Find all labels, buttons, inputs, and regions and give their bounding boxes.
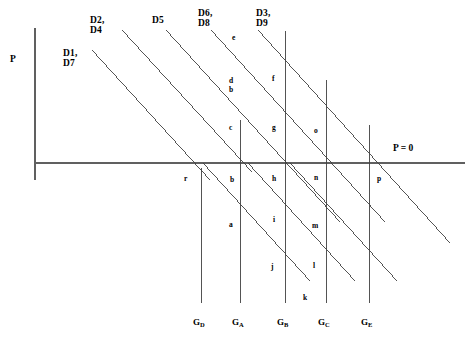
demand-curve-label-d1d7: D1, D7 (63, 48, 78, 69)
quantity-label-base: G (361, 317, 368, 327)
price-axis-label: P (10, 54, 16, 64)
curve-d3d9 (258, 30, 450, 243)
area-label-j: j (271, 263, 274, 271)
demand-curve-label-d5: D5 (152, 15, 164, 25)
area-label-r: r (184, 175, 187, 183)
quantity-label-d: GD (193, 318, 205, 328)
curve-lower-b (248, 163, 355, 281)
area-label-p: p (377, 175, 381, 183)
quantity-label-base: G (277, 317, 284, 327)
area-label-g: g (272, 124, 276, 132)
demand-curves-group (92, 30, 450, 281)
quantity-label-base: G (232, 317, 239, 327)
quantity-label-subscript: E (368, 321, 372, 328)
curve-d6d8 (211, 30, 385, 222)
axes-group (35, 28, 465, 180)
area-label-b: b (230, 176, 234, 184)
quantity-label-a: GA (232, 318, 244, 328)
area-label-e: e (232, 34, 235, 42)
area-label-n: n (314, 174, 318, 182)
area-label-c: c (229, 124, 232, 132)
quantity-label-c: GC (318, 318, 330, 328)
area-label-o: o (314, 127, 318, 135)
area-label-i: i (273, 216, 275, 224)
demand-curve-label-d3d9: D3, D9 (256, 8, 271, 29)
quantity-label-subscript: C (325, 321, 330, 328)
area-label-b: b (229, 86, 233, 94)
quantity-label-subscript: D (200, 321, 205, 328)
area-label-f: f (272, 75, 275, 83)
quantity-label-e: GE (361, 318, 372, 328)
area-label-l: l (313, 262, 315, 270)
diagram-canvas: PP = 0D1, D7D2, D4D5D6, D8D3, D9edbfcgor… (0, 0, 473, 340)
curve-d1d7 (92, 50, 210, 180)
area-label-h: h (272, 175, 276, 183)
quantity-label-subscript: B (284, 321, 288, 328)
quantity-label-subscript: A (239, 321, 244, 328)
quantity-label-base: G (193, 317, 200, 327)
quantity-label-base: G (318, 317, 325, 327)
area-label-a: a (229, 221, 233, 229)
area-label-d: d (229, 77, 233, 85)
demand-curve-label-d6d8: D6, D8 (198, 8, 213, 29)
zero-price-axis-label: P = 0 (393, 143, 413, 153)
curve-lower-a (203, 163, 310, 281)
quantity-label-b: GB (277, 318, 288, 328)
curve-d2d4 (122, 30, 252, 172)
vertical-quantity-lines-group (201, 31, 369, 303)
demand-curve-label-d2d4: D2, D4 (90, 15, 105, 36)
area-label-m: m (312, 222, 318, 230)
area-label-k: k (303, 294, 307, 302)
